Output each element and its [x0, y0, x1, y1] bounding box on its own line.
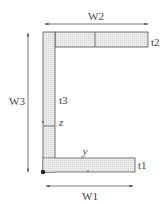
top-flange: t2: [55, 32, 160, 48]
t3-label: t3: [59, 94, 68, 106]
w3-dimension: W3: [9, 33, 28, 172]
z-axis-label: z: [58, 116, 64, 128]
y-axis-label: y: [82, 145, 88, 157]
z-axis-marker: [42, 121, 44, 123]
t2-label: t2: [151, 36, 160, 48]
w1-dimension: W1: [46, 186, 133, 202]
w1-label: W1: [82, 190, 98, 202]
bottom-flange: t1: [43, 158, 147, 172]
w3-label: W3: [9, 95, 25, 107]
t1-label: t1: [138, 159, 147, 171]
web: t3: [43, 32, 68, 172]
origin-point: [41, 170, 45, 174]
w2-label: W2: [88, 10, 104, 22]
channel-section-diagram: W2 W3 W1 t2 t3 t1 y z: [0, 0, 168, 206]
w2-dimension: W2: [45, 10, 148, 24]
